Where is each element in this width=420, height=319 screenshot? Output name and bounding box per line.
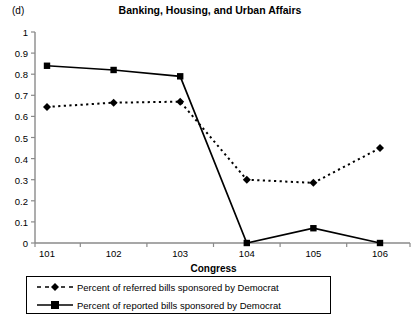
data-point-marker xyxy=(376,144,384,152)
x-tick-label: 106 xyxy=(372,248,388,259)
y-tick-label: 0.2 xyxy=(0,195,28,206)
chart-figure: (d) Banking, Housing, and Urban Affairs … xyxy=(0,0,420,319)
series-line-1 xyxy=(47,66,380,243)
y-tick-label: 0.8 xyxy=(0,69,28,80)
legend: Percent of referred bills sponsored by D… xyxy=(26,276,331,314)
x-tick-label: 105 xyxy=(305,248,321,259)
y-tick-label: 0.1 xyxy=(0,216,28,227)
legend-swatch-solid-square-icon xyxy=(35,298,75,312)
y-tick-label: 0.9 xyxy=(0,48,28,59)
y-tick-label: 0 xyxy=(0,238,28,249)
data-point-marker xyxy=(110,67,116,73)
data-point-marker xyxy=(244,240,250,246)
y-tick-label: 0.7 xyxy=(0,90,28,101)
data-point-marker xyxy=(309,179,317,187)
axes-group xyxy=(31,32,410,247)
data-point-marker xyxy=(177,73,183,79)
series-group xyxy=(43,63,384,247)
x-tick-label: 102 xyxy=(106,248,122,259)
data-point-marker xyxy=(176,98,184,106)
data-point-marker xyxy=(110,99,118,107)
x-tick-label: 103 xyxy=(172,248,188,259)
data-point-marker xyxy=(377,240,383,246)
x-tick-label: 101 xyxy=(39,248,55,259)
legend-item-referred: Percent of referred bills sponsored by D… xyxy=(35,278,330,296)
data-point-marker xyxy=(243,176,251,184)
y-tick-label: 0.3 xyxy=(0,174,28,185)
legend-label-reported: Percent of reported bills sponsored by D… xyxy=(77,300,281,311)
data-point-marker xyxy=(44,63,50,69)
legend-item-reported: Percent of reported bills sponsored by D… xyxy=(35,296,330,314)
y-tick-label: 0.4 xyxy=(0,153,28,164)
series-line-0 xyxy=(47,102,380,183)
legend-swatch-dashed-diamond-icon xyxy=(35,280,75,294)
x-axis-title: Congress xyxy=(190,263,236,274)
y-tick-label: 1 xyxy=(0,27,28,38)
legend-label-referred: Percent of referred bills sponsored by D… xyxy=(77,282,279,293)
data-point-marker xyxy=(43,103,51,111)
y-tick-label: 0.6 xyxy=(0,111,28,122)
y-tick-label: 0.5 xyxy=(0,132,28,143)
data-point-marker xyxy=(310,225,316,231)
x-tick-label: 104 xyxy=(239,248,255,259)
